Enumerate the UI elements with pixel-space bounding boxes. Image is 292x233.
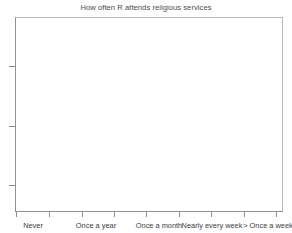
x-axis-tick — [244, 212, 245, 217]
x-axis-tick — [179, 212, 180, 217]
x-axis-tick-label: > Once a week — [243, 221, 292, 231]
chart-figure: How often R attends religious services N… — [0, 0, 292, 233]
y-axis-tick — [9, 66, 15, 67]
x-axis-tick — [49, 212, 50, 217]
x-axis-tick-label: Never — [23, 221, 43, 231]
x-axis-tick-label: Once a month — [136, 221, 182, 231]
y-axis-tick — [9, 126, 15, 127]
x-axis-tick — [276, 212, 277, 217]
x-axis-tick — [146, 212, 147, 217]
x-axis-tick — [16, 212, 17, 217]
x-axis-tick-label: Nearly every week — [182, 221, 243, 231]
y-axis-tick — [9, 185, 15, 186]
x-axis-tick — [114, 212, 115, 217]
x-axis-tick — [82, 212, 83, 217]
chart-title: How often R attends religious services — [0, 3, 292, 13]
x-axis-tick — [211, 212, 212, 217]
x-axis-tick-label: Once a year — [76, 221, 116, 231]
plot-area — [15, 17, 283, 212]
